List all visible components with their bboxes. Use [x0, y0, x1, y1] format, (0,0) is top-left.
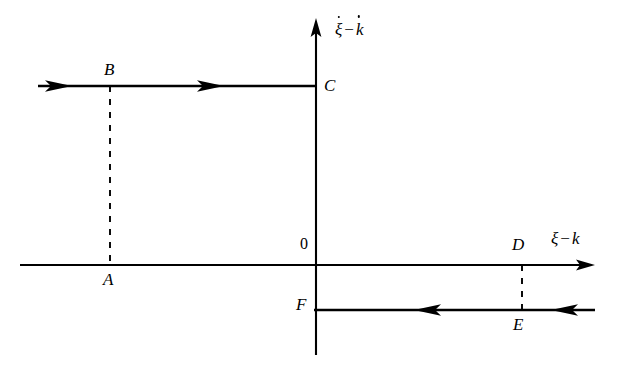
y-axis [311, 18, 322, 355]
point-label-e: E [513, 316, 523, 333]
upper-branch [38, 80, 316, 92]
x-axis-label-operator: − [558, 229, 572, 248]
y-axis-label-xi-glyph: ξ [335, 20, 342, 39]
point-label-b: B [104, 61, 114, 78]
y-axis-label-operator: − [342, 20, 356, 39]
y-axis-label-k-glyph: k [356, 20, 364, 39]
point-label-a: A [103, 271, 113, 288]
figure-canvas: B C A D E F 0 ξ−k ξ−k [0, 0, 618, 366]
point-label-c: C [324, 77, 335, 94]
y-axis-label-xi: ξ [335, 21, 342, 38]
origin-label: 0 [300, 236, 308, 252]
point-label-d: D [512, 236, 524, 253]
y-axis-label-k: k [356, 21, 364, 38]
x-axis [20, 260, 595, 271]
y-axis-label: ξ−k [335, 21, 363, 38]
point-label-f: F [296, 296, 306, 313]
x-axis-label: ξ−k [551, 230, 579, 247]
lower-branch [314, 304, 595, 316]
x-axis-label-k-glyph: k [572, 229, 580, 248]
phase-plane-diagram [0, 0, 618, 366]
